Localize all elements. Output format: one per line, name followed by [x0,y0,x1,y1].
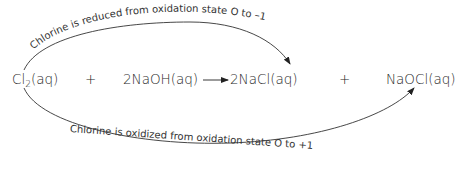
plus-sign-2: + [339,71,350,87]
product-sodium-chloride: 2NaCl(aq) [230,71,298,87]
product-sodium-hypochlorite: NaOCl(aq) [386,71,456,87]
reactant-sodium-hydroxide: 2NaOH(aq) [123,71,198,87]
reactant-chlorine: Cl2(aq) [12,71,58,89]
oxidation-label: Chlorine is oxidized from oxidation stat… [70,123,314,151]
redox-diagram: Chlorine is reduced from oxidation state… [0,0,459,169]
plus-sign-1: + [85,71,96,87]
